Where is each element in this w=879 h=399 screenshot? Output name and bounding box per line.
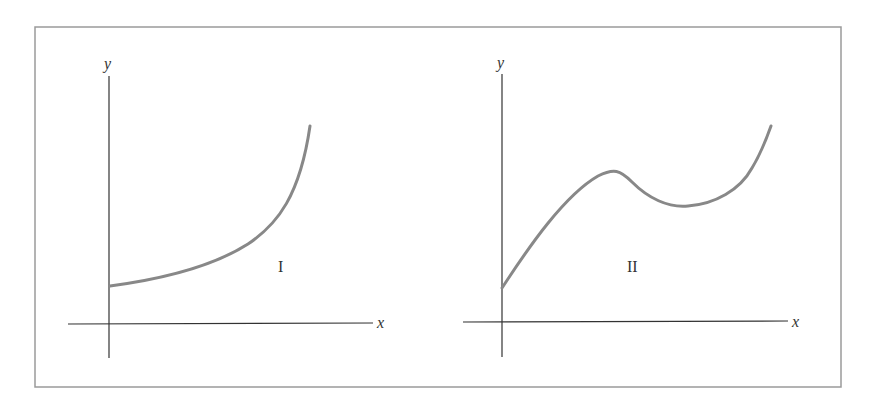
x-axis-label-II: x (791, 313, 799, 330)
figure: y x I y x II (0, 0, 879, 399)
panel-II: y x II (463, 54, 799, 357)
y-axis-label-II: y (495, 54, 505, 72)
figure-frame (35, 27, 841, 387)
x-axis-II (463, 321, 788, 322)
panel-label-II: II (627, 258, 638, 275)
panel-label-I: I (278, 258, 283, 275)
x-axis-label-I: x (376, 314, 384, 331)
x-axis-I (68, 323, 373, 324)
panel-I: y x I (68, 55, 384, 358)
y-axis-label-I: y (102, 55, 112, 73)
